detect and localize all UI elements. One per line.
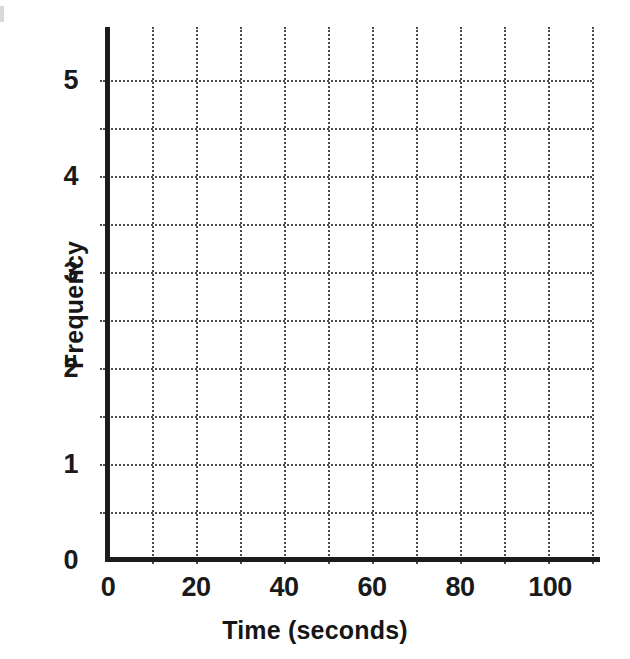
x-tick-label: 0 bbox=[101, 572, 116, 603]
chart-container: 5 4 3 2 1 0 0 20 40 60 80 100 Time (seco… bbox=[0, 0, 630, 659]
x-axis-title: Time (seconds) bbox=[0, 616, 630, 645]
y-axis-title: Frequency bbox=[60, 241, 89, 369]
x-tick-label: 20 bbox=[181, 572, 210, 603]
x-tick-label: 60 bbox=[357, 572, 386, 603]
x-axis-tick-labels: 0 20 40 60 80 100 bbox=[0, 0, 630, 659]
x-tick-label: 80 bbox=[445, 572, 474, 603]
x-tick-label: 40 bbox=[269, 572, 298, 603]
x-tick-label: 100 bbox=[528, 572, 572, 603]
